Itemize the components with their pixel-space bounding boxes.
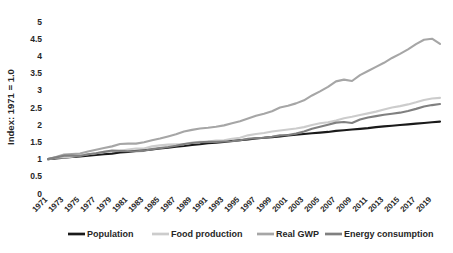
x-tick-label: 2007: [318, 195, 337, 214]
series-line-energy-consumption: [48, 104, 440, 159]
chart-container: Index: 1971 = 1.0 00.511.522.533.544.55 …: [0, 0, 453, 253]
x-tick-label: 2017: [398, 195, 417, 214]
series-line-real-gwp: [48, 39, 440, 159]
legend-label-energy-consumption: Energy consumption: [344, 229, 434, 239]
data-series-group: [48, 39, 440, 159]
y-tick-label: 4: [37, 51, 42, 61]
x-tick-label: 1981: [110, 195, 129, 214]
x-tick-label: 2015: [382, 195, 401, 214]
x-tick-label: 1975: [62, 195, 81, 214]
legend-label-food-production: Food production: [171, 229, 242, 239]
x-axis-ticks: 1971197319751977197919811983198519871989…: [30, 195, 433, 214]
y-axis-title: Index: 1971 = 1.0: [5, 69, 16, 145]
y-tick-label: 1.5: [30, 137, 42, 147]
legend-label-real-gwp: Real GWP: [276, 229, 319, 239]
x-tick-label: 1989: [174, 195, 193, 214]
x-tick-label: 1973: [46, 195, 65, 214]
x-tick-label: 1987: [158, 195, 177, 214]
y-tick-label: 4.5: [30, 34, 42, 44]
x-tick-label: 2019: [414, 195, 433, 214]
x-tick-label: 1985: [142, 195, 161, 214]
x-tick-label: 2003: [286, 195, 305, 214]
line-chart: Index: 1971 = 1.0 00.511.522.533.544.55 …: [0, 0, 453, 253]
x-tick-label: 1995: [222, 195, 241, 214]
x-tick-label: 2013: [366, 195, 385, 214]
y-tick-label: 1: [37, 154, 42, 164]
legend-label-population: Population: [87, 229, 134, 239]
x-tick-label: 2005: [302, 195, 321, 214]
y-tick-label: 2.5: [30, 103, 42, 113]
x-tick-label: 1993: [206, 195, 225, 214]
x-tick-label: 2009: [334, 195, 353, 214]
chart-legend: PopulationFood productionReal GWPEnergy …: [68, 229, 434, 239]
x-tick-label: 1979: [94, 195, 113, 214]
x-tick-label: 1997: [238, 195, 257, 214]
x-tick-label: 1971: [30, 195, 49, 214]
x-tick-label: 1977: [78, 195, 97, 214]
x-tick-label: 2001: [270, 195, 289, 214]
x-tick-label: 1983: [126, 195, 145, 214]
x-tick-label: 1999: [254, 195, 273, 214]
y-tick-label: 3: [37, 85, 42, 95]
y-tick-label: 0.5: [30, 171, 42, 181]
y-tick-label: 5: [37, 17, 42, 27]
y-axis-title-group: Index: 1971 = 1.0: [5, 69, 16, 145]
x-tick-label: 2011: [351, 195, 370, 214]
y-tick-label: 3.5: [30, 68, 42, 78]
x-tick-label: 1991: [190, 195, 209, 214]
y-tick-label: 2: [37, 120, 42, 130]
y-axis-ticks: 00.511.522.533.544.55: [30, 17, 42, 199]
series-line-food-production: [48, 98, 440, 159]
